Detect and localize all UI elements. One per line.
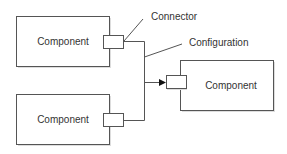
component-right[interactable]: Component (181, 61, 276, 113)
leader-line (124, 19, 143, 41)
component-label: Component (37, 36, 89, 47)
annotation-label: Configuration (189, 37, 248, 48)
leader-line (145, 44, 183, 57)
connector-top-left[interactable] (104, 36, 125, 50)
component-top-left[interactable]: Component (17, 17, 112, 69)
connector-port (167, 76, 187, 89)
component-diagram: Component Component Component Connector … (0, 0, 287, 154)
component-label: Component (205, 80, 257, 91)
component-bottom-left[interactable]: Component (17, 95, 112, 147)
connector-port (104, 114, 124, 127)
connector-right[interactable] (167, 76, 188, 91)
connector-port (104, 36, 124, 49)
bus-line (124, 42, 145, 121)
annotation-connector: Connector (124, 11, 198, 41)
component-label: Component (37, 114, 89, 125)
configuration-wires (124, 42, 166, 121)
annotation-configuration: Configuration (145, 37, 249, 57)
connector-bottom-left[interactable] (104, 114, 125, 128)
annotation-label: Connector (151, 11, 198, 22)
